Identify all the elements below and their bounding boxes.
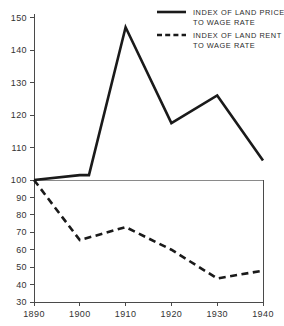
- y-tick-label: 50: [16, 262, 27, 272]
- y-tick-label: 150: [11, 13, 27, 23]
- legend-label-land-rent-line1: INDEX OF LAND RENT: [193, 31, 282, 40]
- y-tick-label: 90: [16, 193, 27, 203]
- y-axis-tick-labels: 15014013012011010090807060504030: [11, 13, 27, 308]
- y-tick-label: 30: [16, 297, 27, 307]
- y-tick-label: 130: [11, 78, 27, 88]
- x-tick-label: 1920: [161, 309, 183, 319]
- y-tick-label: 140: [11, 45, 27, 55]
- y-tick-label: 80: [16, 210, 27, 220]
- line-chart: 15014013012011010090807060504030 1890190…: [0, 0, 284, 326]
- y-axis-tick-marks: [30, 18, 34, 303]
- x-tick-label: 1900: [69, 309, 91, 319]
- plot-frame: [34, 14, 263, 302]
- series-line-land-rent: [34, 180, 263, 278]
- y-tick-label: 60: [16, 245, 27, 255]
- x-tick-label: 1930: [206, 309, 228, 319]
- x-tick-label: 1890: [23, 309, 45, 319]
- y-tick-label: 110: [11, 143, 27, 153]
- x-axis-tick-labels: 189019001910192019301940: [23, 309, 274, 319]
- y-tick-label: 40: [16, 280, 27, 290]
- y-tick-label: 120: [11, 110, 27, 120]
- y-tick-label: 100: [11, 175, 27, 185]
- chart-container: 15014013012011010090807060504030 1890190…: [0, 0, 284, 326]
- y-tick-label: 70: [16, 227, 27, 237]
- legend-label-land-rent-line2: TO WAGE RATE: [193, 41, 255, 50]
- legend-label-land-price-line1: INDEX OF LAND PRICE: [193, 8, 284, 17]
- x-tick-label: 1910: [115, 309, 137, 319]
- x-axis-tick-marks: [34, 302, 263, 306]
- x-tick-label: 1940: [252, 309, 274, 319]
- legend: INDEX OF LAND PRICE TO WAGE RATE INDEX O…: [157, 8, 284, 51]
- legend-label-land-price-line2: TO WAGE RATE: [193, 18, 255, 27]
